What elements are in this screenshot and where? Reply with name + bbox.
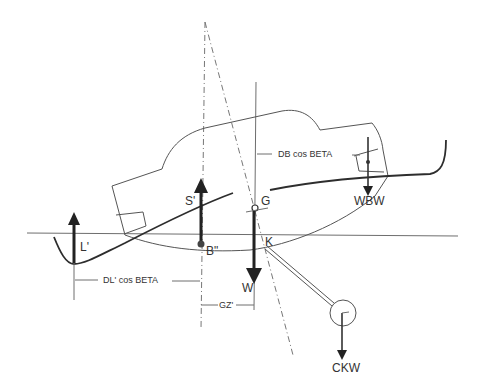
keel-strut-a	[265, 249, 332, 306]
dim-gz-label: GZ'	[219, 300, 233, 310]
b-double-prime-label: B"	[206, 244, 218, 258]
hull-outline	[112, 110, 388, 251]
stability-diagram: DB cos BETA WBW S' B" L' DL' cos BETA G …	[0, 0, 487, 391]
s-prime-arrow-head	[194, 178, 208, 193]
dashed-vertical-through-b	[201, 22, 205, 330]
k-label: K	[265, 235, 273, 249]
s-prime-label: S'	[185, 194, 195, 208]
dim-db-label: DB cos BETA	[278, 149, 332, 159]
waterline	[27, 233, 458, 236]
wbw-label: WBW	[354, 194, 385, 208]
dim-dl-label: DL' cos BETA	[103, 275, 158, 285]
g-label: G	[261, 194, 270, 208]
ckw-label: CKW	[332, 361, 361, 375]
l-prime-arrow-head	[68, 212, 80, 225]
w-label: W	[242, 281, 254, 295]
b-double-prime-point	[198, 241, 205, 248]
transom-box	[116, 212, 146, 234]
l-prime-label: L'	[80, 240, 89, 254]
keel-strut-b	[267, 246, 334, 303]
ckw-arrow-head	[337, 350, 347, 360]
wbw-point	[366, 160, 370, 164]
